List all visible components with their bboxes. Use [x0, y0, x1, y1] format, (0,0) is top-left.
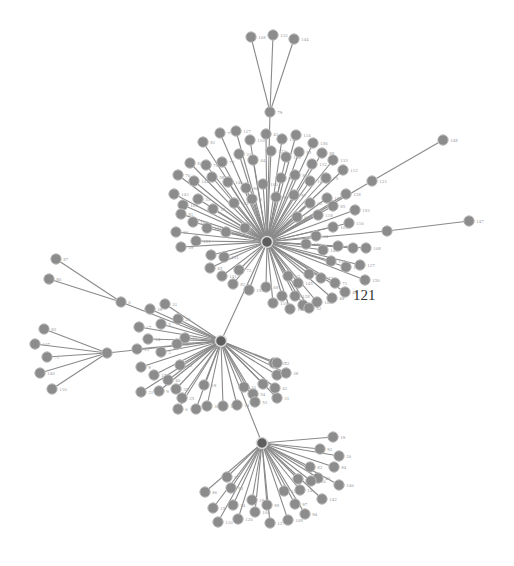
graph-node[interactable]	[234, 265, 244, 275]
graph-node[interactable]	[333, 241, 343, 251]
graph-node[interactable]	[277, 134, 287, 144]
graph-node[interactable]	[247, 495, 257, 505]
graph-node[interactable]	[176, 242, 186, 252]
graph-node[interactable]	[202, 223, 212, 233]
graph-node[interactable]	[348, 243, 358, 253]
graph-node[interactable]	[305, 176, 315, 186]
graph-node[interactable]	[169, 189, 179, 199]
graph-node[interactable]	[293, 278, 303, 288]
graph-node[interactable]	[217, 157, 227, 167]
graph-node[interactable]	[215, 128, 225, 138]
graph-node[interactable]	[213, 517, 223, 527]
graph-node[interactable]	[221, 227, 231, 237]
graph-node[interactable]	[316, 273, 326, 283]
graph-node[interactable]	[285, 304, 295, 314]
graph-node[interactable]	[250, 507, 260, 517]
graph-node[interactable]	[341, 262, 351, 272]
hub-node[interactable]	[257, 438, 268, 449]
graph-node[interactable]	[200, 487, 210, 497]
graph-node[interactable]	[47, 384, 57, 394]
graph-node[interactable]	[438, 135, 448, 145]
graph-node[interactable]	[311, 231, 321, 241]
graph-node[interactable]	[207, 172, 217, 182]
hub-node[interactable]	[262, 237, 273, 248]
hub-node[interactable]	[216, 336, 227, 347]
graph-node[interactable]	[223, 177, 233, 187]
graph-node[interactable]	[272, 358, 282, 368]
graph-node[interactable]	[156, 347, 166, 357]
graph-node[interactable]	[291, 130, 301, 140]
graph-node[interactable]	[360, 275, 370, 285]
graph-node[interactable]	[289, 34, 299, 44]
graph-node[interactable]	[191, 404, 201, 414]
graph-node[interactable]	[44, 274, 54, 284]
graph-node[interactable]	[149, 370, 159, 380]
graph-node[interactable]	[289, 190, 299, 200]
graph-node[interactable]	[173, 314, 183, 324]
graph-node[interactable]	[136, 387, 146, 397]
graph-node[interactable]	[198, 137, 208, 147]
graph-node[interactable]	[327, 293, 337, 303]
graph-node[interactable]	[295, 485, 305, 495]
graph-node[interactable]	[229, 198, 239, 208]
graph-node[interactable]	[218, 401, 228, 411]
graph-node[interactable]	[367, 176, 377, 186]
graph-node[interactable]	[344, 218, 354, 228]
graph-node[interactable]	[205, 263, 215, 273]
graph-node[interactable]	[361, 243, 371, 253]
graph-node[interactable]	[39, 324, 49, 334]
graph-node[interactable]	[330, 278, 340, 288]
graph-node[interactable]	[338, 165, 348, 175]
graph-node[interactable]	[305, 198, 315, 208]
graph-node[interactable]	[293, 474, 303, 484]
graph-node[interactable]	[228, 500, 238, 510]
graph-node[interactable]	[173, 404, 183, 414]
graph-node[interactable]	[171, 227, 181, 237]
graph-node[interactable]	[318, 245, 328, 255]
graph-node[interactable]	[116, 297, 126, 307]
graph-node[interactable]	[222, 472, 232, 482]
graph-node[interactable]	[239, 382, 249, 392]
graph-node[interactable]	[328, 222, 338, 232]
graph-node[interactable]	[341, 189, 351, 199]
graph-node[interactable]	[268, 298, 278, 308]
graph-node[interactable]	[241, 183, 251, 193]
graph-node[interactable]	[270, 383, 280, 393]
graph-node[interactable]	[328, 201, 338, 211]
graph-node[interactable]	[283, 515, 293, 525]
graph-node[interactable]	[308, 138, 318, 148]
graph-node[interactable]	[317, 148, 327, 158]
graph-node[interactable]	[208, 204, 218, 214]
graph-node[interactable]	[292, 212, 302, 222]
graph-node[interactable]	[268, 30, 278, 40]
graph-node[interactable]	[276, 173, 286, 183]
graph-node[interactable]	[177, 393, 187, 403]
graph-node[interactable]	[188, 217, 198, 227]
graph-node[interactable]	[283, 271, 293, 281]
graph-node[interactable]	[313, 210, 323, 220]
graph-node[interactable]	[382, 226, 392, 236]
graph-node[interactable]	[102, 348, 112, 358]
graph-node[interactable]	[290, 499, 300, 509]
graph-node[interactable]	[261, 282, 271, 292]
graph-node[interactable]	[51, 254, 61, 264]
graph-node[interactable]	[245, 135, 255, 145]
graph-node[interactable]	[232, 400, 242, 410]
graph-node[interactable]	[173, 170, 183, 180]
graph-node[interactable]	[272, 393, 282, 403]
graph-node[interactable]	[244, 285, 254, 295]
graph-node[interactable]	[326, 256, 336, 266]
graph-node[interactable]	[279, 486, 289, 496]
graph-node[interactable]	[265, 107, 275, 117]
graph-node[interactable]	[176, 209, 186, 219]
graph-node[interactable]	[163, 375, 173, 385]
graph-node[interactable]	[234, 149, 244, 159]
graph-node[interactable]	[294, 147, 304, 157]
graph-node[interactable]	[328, 155, 338, 165]
graph-node[interactable]	[304, 303, 314, 313]
graph-node[interactable]	[247, 194, 257, 204]
graph-node[interactable]	[233, 514, 243, 524]
graph-node[interactable]	[265, 518, 275, 528]
graph-node[interactable]	[154, 386, 164, 396]
graph-node[interactable]	[258, 379, 268, 389]
